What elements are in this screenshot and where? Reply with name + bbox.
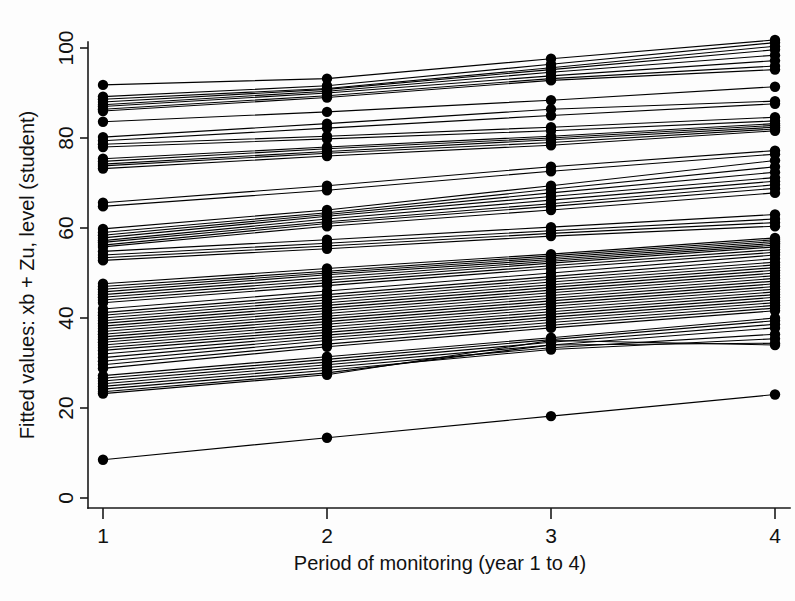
y-axis-tick-label: 60 <box>54 216 77 239</box>
trajectory-point <box>322 433 332 443</box>
x-axis-tick-label: 1 <box>97 524 109 547</box>
trajectory-series <box>98 167 780 240</box>
trajectory-line <box>103 178 775 238</box>
trajectory-plot: 020406080100 1234 Fitted values: xb + Zu… <box>0 0 795 601</box>
trajectory-point <box>546 95 556 105</box>
trajectory-point <box>98 255 108 265</box>
trajectory-point <box>98 80 108 90</box>
trajectory-line <box>103 181 775 240</box>
y-axis-tick-label: 80 <box>54 126 77 149</box>
trajectory-line <box>103 66 775 109</box>
x-axis-tick-label: 3 <box>545 524 557 547</box>
trajectory-point <box>322 185 332 195</box>
trajectory-point <box>98 201 108 211</box>
trajectory-line <box>103 172 775 235</box>
data-series-layer <box>98 35 780 465</box>
trajectory-series <box>98 389 780 465</box>
trajectory-series <box>98 155 780 234</box>
trajectory-line <box>103 61 775 107</box>
chart-container: 020406080100 1234 Fitted values: xb + Zu… <box>0 0 795 601</box>
y-axis-tick-label: 40 <box>54 306 77 329</box>
trajectory-line <box>103 243 775 292</box>
trajectory-point <box>98 106 108 116</box>
trajectory-point <box>546 75 556 85</box>
trajectory-point <box>322 221 332 231</box>
trajectory-series <box>98 172 780 243</box>
y-axis-title: Fitted values: xb + Zu, level (student) <box>16 111 38 440</box>
trajectory-point <box>770 99 780 109</box>
x-axis-tick-label: 2 <box>321 524 333 547</box>
trajectory-point <box>322 151 332 161</box>
trajectory-point <box>770 389 780 399</box>
trajectory-point <box>770 340 780 350</box>
trajectory-point <box>98 163 108 173</box>
trajectory-point <box>770 221 780 231</box>
trajectory-point <box>98 455 108 465</box>
trajectory-point <box>546 140 556 150</box>
trajectory-point <box>770 126 780 136</box>
y-axis-ticks: 020406080100 <box>54 30 88 503</box>
trajectory-line <box>103 324 775 381</box>
y-axis-tick-label: 20 <box>54 396 77 419</box>
x-axis-title: Period of monitoring (year 1 to 4) <box>294 552 586 574</box>
trajectory-line <box>103 395 775 460</box>
trajectory-point <box>546 323 556 333</box>
y-axis-tick-label: 0 <box>54 492 77 504</box>
trajectory-point <box>546 205 556 215</box>
y-axis-tick-label: 100 <box>54 30 77 65</box>
trajectory-line <box>103 305 775 361</box>
trajectory-line <box>103 219 775 255</box>
trajectory-point <box>322 370 332 380</box>
trajectory-point <box>770 188 780 198</box>
trajectory-point <box>546 166 556 176</box>
trajectory-line <box>103 339 775 389</box>
trajectory-point <box>98 388 108 398</box>
trajectory-point <box>322 244 332 254</box>
trajectory-point <box>546 411 556 421</box>
trajectory-point <box>98 142 108 152</box>
trajectory-point <box>770 64 780 74</box>
trajectory-point <box>322 107 332 117</box>
x-axis-tick-label: 4 <box>769 524 781 547</box>
trajectory-point <box>546 335 556 345</box>
trajectory-line <box>103 154 775 206</box>
x-axis-ticks: 1234 <box>97 508 781 547</box>
trajectory-line <box>103 127 775 164</box>
trajectory-point <box>770 82 780 92</box>
trajectory-line <box>103 131 775 169</box>
trajectory-point <box>322 92 332 102</box>
trajectory-point <box>546 110 556 120</box>
trajectory-point <box>546 231 556 241</box>
trajectory-point <box>98 117 108 127</box>
trajectory-point <box>322 342 332 352</box>
trajectory-series <box>98 41 780 105</box>
trajectory-series <box>98 45 780 108</box>
